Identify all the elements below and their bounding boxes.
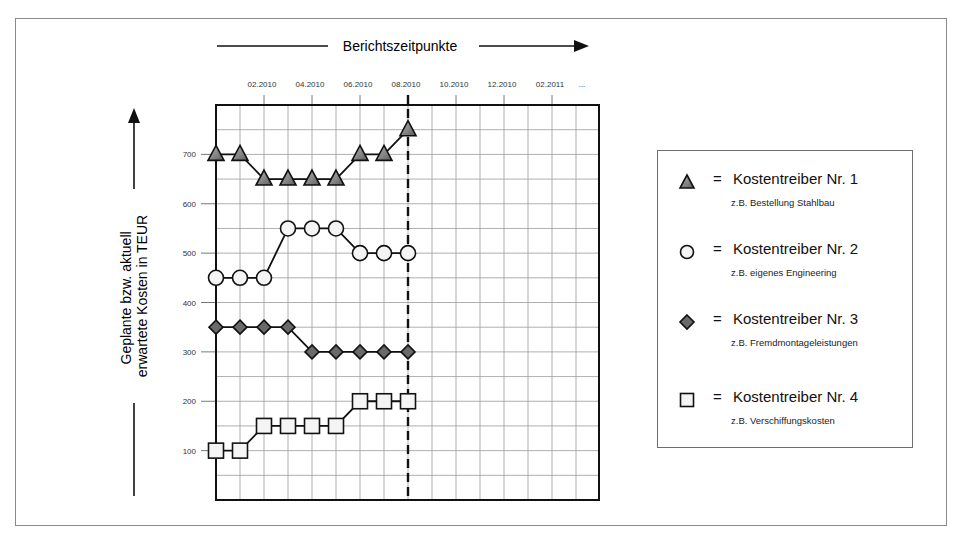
x-tick-label: 08.2010 (392, 80, 421, 89)
legend-sublabel: z.B. Bestellung Stahlbau (731, 197, 835, 208)
circle-marker-icon (233, 270, 248, 285)
x-tick-label: 02.2011 (536, 80, 565, 89)
diamond-marker-icon (401, 345, 415, 359)
diamond-marker-icon (209, 320, 223, 334)
y-tick-label: 600 (183, 200, 197, 209)
diamond-marker-icon (377, 345, 391, 359)
square-marker-icon (281, 418, 296, 433)
triangle-marker-icon (304, 170, 320, 185)
circle-marker-icon (401, 246, 416, 261)
diamond-marker-icon (353, 345, 367, 359)
y-tick-labels: 100200300400500600700 (183, 150, 216, 455)
circle-marker-icon (305, 221, 320, 236)
triangle-marker-icon (280, 170, 296, 185)
legend-sublabel: z.B. eigenes Engineering (731, 267, 837, 278)
y-tick-label: 400 (183, 299, 197, 308)
square-marker-icon (377, 394, 392, 409)
x-tick-label: ... (579, 80, 586, 89)
y-tick-label: 700 (183, 150, 197, 159)
legend-sublabel: z.B. Verschiffungskosten (731, 415, 835, 426)
y-tick-label: 500 (183, 249, 197, 258)
arrow-right-icon (574, 40, 589, 52)
legend-equals: = (713, 170, 722, 187)
square-marker-icon (329, 418, 344, 433)
legend-label: Kostentreiber Nr. 1 (733, 170, 858, 187)
circle-marker-icon (329, 221, 344, 236)
y-tick-label: 200 (183, 397, 197, 406)
circle-marker-icon (257, 270, 272, 285)
diamond-marker-icon (257, 320, 271, 334)
square-marker-icon (257, 418, 272, 433)
circle-marker-icon (281, 221, 296, 236)
circle-marker-icon (353, 246, 368, 261)
x-axis-title: Berichtszeitpunkte (343, 38, 458, 54)
plot-grid (216, 105, 599, 500)
legend-equals: = (713, 310, 722, 327)
y-tick-label: 300 (183, 348, 197, 357)
legend-label: Kostentreiber Nr. 2 (733, 240, 858, 257)
diamond-marker-icon (233, 320, 247, 334)
x-tick-label: 04.2010 (296, 80, 325, 89)
arrow-up-icon (128, 108, 140, 123)
triangle-marker-icon (208, 145, 224, 160)
circle-marker-icon (678, 243, 696, 261)
triangle-marker-icon (400, 121, 416, 136)
square-marker-icon (353, 394, 368, 409)
legend: = Kostentreiber Nr. 1 z.B. Bestellung St… (657, 150, 913, 448)
square-marker-icon (209, 443, 224, 458)
square-marker-icon (678, 391, 696, 409)
square-marker-icon (401, 394, 416, 409)
legend-label: Kostentreiber Nr. 4 (733, 388, 858, 405)
legend-equals: = (713, 240, 722, 257)
x-axis-title-arrow: Berichtszeitpunkte (217, 38, 589, 54)
triangle-marker-icon (678, 173, 696, 191)
triangle-marker-icon (352, 145, 368, 160)
legend-equals: = (713, 388, 722, 405)
y-axis-title-arrow: Geplante bzw. aktuell erwartete Kosten i… (118, 108, 150, 496)
legend-sublabel: z.B. Fremdmontageleistungen (731, 337, 858, 348)
legend-label: Kostentreiber Nr. 3 (733, 310, 858, 327)
y-axis-title: Geplante bzw. aktuell erwartete Kosten i… (118, 215, 150, 377)
x-tick-label: 02.2010 (248, 80, 277, 89)
x-tick-label: 12.2010 (488, 80, 517, 89)
triangle-marker-icon (232, 145, 248, 160)
square-marker-icon (233, 443, 248, 458)
x-tick-labels: 02.201004.201006.201008.201010.201012.20… (248, 80, 586, 105)
diamond-marker-icon (329, 345, 343, 359)
square-marker-icon (305, 418, 320, 433)
x-tick-label: 06.2010 (344, 80, 373, 89)
diamond-marker-icon (678, 313, 696, 331)
y-tick-label: 100 (183, 447, 197, 456)
x-tick-label: 10.2010 (440, 80, 469, 89)
circle-marker-icon (377, 246, 392, 261)
circle-marker-icon (209, 270, 224, 285)
